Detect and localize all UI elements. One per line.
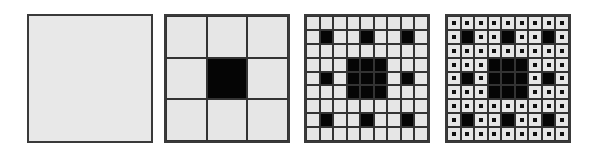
grid-cell xyxy=(374,16,388,30)
grid-cell xyxy=(333,44,347,58)
grid-cell xyxy=(166,99,207,141)
grid-cell xyxy=(247,99,288,141)
grid-cell xyxy=(360,44,374,58)
grid-cell xyxy=(515,44,529,58)
grid-9x9-dotted xyxy=(447,16,569,141)
grid-cell xyxy=(488,16,502,30)
removed-subcell-dot xyxy=(520,21,524,25)
removed-subcell-dot xyxy=(533,90,537,94)
removed-cell xyxy=(374,72,388,86)
grid-cell xyxy=(347,113,361,127)
removed-subcell-dot xyxy=(506,132,510,136)
removed-subcell-dot xyxy=(547,21,551,25)
grid-cell xyxy=(555,113,569,127)
grid-cell xyxy=(207,99,248,141)
grid-cell xyxy=(320,99,334,113)
removed-subcell-dot xyxy=(560,35,564,39)
removed-cell xyxy=(401,72,415,86)
grid-cell xyxy=(542,16,556,30)
removed-subcell-dot xyxy=(479,90,483,94)
grid-cell xyxy=(247,16,288,58)
grid-cell xyxy=(461,99,475,113)
removed-cell xyxy=(374,58,388,72)
removed-subcell-dot xyxy=(465,21,469,25)
grid-cell xyxy=(374,30,388,44)
removed-subcell-dot xyxy=(560,76,564,80)
grid-cell xyxy=(347,127,361,141)
grid-cell xyxy=(501,16,515,30)
grid-cell xyxy=(347,16,361,30)
removed-subcell-dot xyxy=(520,132,524,136)
grid-cell xyxy=(528,16,542,30)
removed-subcell-dot xyxy=(520,35,524,39)
grid-cell xyxy=(528,113,542,127)
removed-subcell-dot xyxy=(506,21,510,25)
grid-cell xyxy=(414,30,428,44)
removed-subcell-dot xyxy=(465,132,469,136)
grid-cell xyxy=(515,113,529,127)
removed-subcell-dot xyxy=(560,90,564,94)
grid-cell xyxy=(488,30,502,44)
grid-cell xyxy=(333,30,347,44)
grid-cell xyxy=(447,30,461,44)
removed-cell xyxy=(488,58,502,72)
removed-cell xyxy=(374,85,388,99)
grid-cell xyxy=(474,99,488,113)
grid-cell xyxy=(414,113,428,127)
grid-cell xyxy=(488,127,502,141)
removed-subcell-dot xyxy=(452,35,456,39)
grid-cell xyxy=(528,127,542,141)
grid-cell xyxy=(333,127,347,141)
removed-subcell-dot xyxy=(533,35,537,39)
grid-cell xyxy=(555,99,569,113)
removed-subcell-dot xyxy=(452,132,456,136)
grid-cell xyxy=(306,85,320,99)
removed-subcell-dot xyxy=(452,63,456,67)
grid-cell xyxy=(528,85,542,99)
grid-cell xyxy=(320,58,334,72)
grid-cell xyxy=(333,16,347,30)
grid-cell xyxy=(474,58,488,72)
removed-cell xyxy=(515,72,529,86)
grid-cell xyxy=(306,58,320,72)
removed-subcell-dot xyxy=(452,49,456,53)
grid-cell xyxy=(474,30,488,44)
grid-cell xyxy=(360,127,374,141)
removed-subcell-dot xyxy=(520,118,524,122)
grid-cell xyxy=(306,44,320,58)
grid-cell xyxy=(447,85,461,99)
grid-cell xyxy=(488,44,502,58)
removed-subcell-dot xyxy=(547,104,551,108)
grid-cell xyxy=(414,127,428,141)
removed-subcell-dot xyxy=(520,104,524,108)
grid-cell xyxy=(474,16,488,30)
grid-cell xyxy=(333,58,347,72)
grid-cell xyxy=(401,99,415,113)
grid-cell xyxy=(528,72,542,86)
grid-cell xyxy=(374,99,388,113)
removed-cell xyxy=(461,72,475,86)
removed-subcell-dot xyxy=(560,21,564,25)
grid-cell xyxy=(461,127,475,141)
removed-cell xyxy=(542,30,556,44)
grid-cell xyxy=(501,44,515,58)
grid-cell xyxy=(555,16,569,30)
grid-cell xyxy=(542,127,556,141)
grid-cell xyxy=(528,99,542,113)
grid-cell xyxy=(401,44,415,58)
removed-cell xyxy=(542,113,556,127)
grid-cell xyxy=(474,85,488,99)
removed-subcell-dot xyxy=(479,35,483,39)
removed-cell xyxy=(360,113,374,127)
grid-cell xyxy=(555,44,569,58)
grid-cell xyxy=(501,99,515,113)
grid-cell xyxy=(360,99,374,113)
grid-cell xyxy=(528,44,542,58)
grid-9x9 xyxy=(306,16,428,141)
removed-cell xyxy=(515,85,529,99)
removed-subcell-dot xyxy=(492,132,496,136)
removed-cell xyxy=(320,30,334,44)
removed-subcell-dot xyxy=(506,49,510,53)
removed-subcell-dot xyxy=(465,90,469,94)
removed-subcell-dot xyxy=(465,104,469,108)
